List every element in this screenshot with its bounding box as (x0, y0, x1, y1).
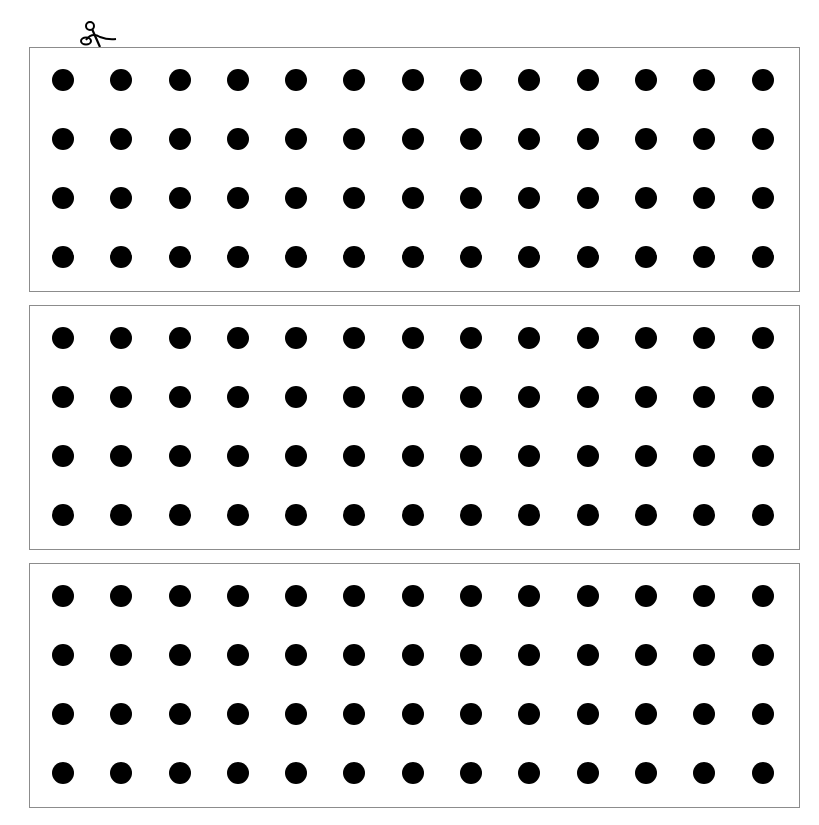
dot (402, 644, 424, 666)
dot (402, 445, 424, 467)
dot (752, 585, 774, 607)
dot (635, 445, 657, 467)
dot (110, 585, 132, 607)
dot (343, 246, 365, 268)
dot (52, 504, 74, 526)
dot (285, 445, 307, 467)
dot (343, 445, 365, 467)
dot (693, 246, 715, 268)
dot (52, 327, 74, 349)
dot (752, 504, 774, 526)
dot (460, 386, 482, 408)
dot (577, 644, 599, 666)
dot (577, 327, 599, 349)
dot (169, 703, 191, 725)
dot (285, 585, 307, 607)
dot (52, 644, 74, 666)
dot (227, 762, 249, 784)
dot (402, 187, 424, 209)
dot (52, 246, 74, 268)
dot (285, 762, 307, 784)
dot (169, 327, 191, 349)
dot (518, 703, 540, 725)
dot (285, 327, 307, 349)
dot-grid (52, 69, 774, 268)
dot (635, 703, 657, 725)
dot (52, 386, 74, 408)
dot (752, 762, 774, 784)
dot (285, 703, 307, 725)
dot (635, 585, 657, 607)
dot (285, 246, 307, 268)
dot (343, 327, 365, 349)
dot (752, 644, 774, 666)
dot (518, 445, 540, 467)
dot (693, 69, 715, 91)
dot (752, 246, 774, 268)
dot (285, 187, 307, 209)
dot (460, 703, 482, 725)
dot (752, 187, 774, 209)
dot (402, 128, 424, 150)
dot (169, 128, 191, 150)
dot (227, 504, 249, 526)
dot (577, 69, 599, 91)
dot (169, 386, 191, 408)
dot (752, 703, 774, 725)
dot (460, 327, 482, 349)
dot (110, 128, 132, 150)
dot (169, 187, 191, 209)
dot (693, 187, 715, 209)
dot (518, 504, 540, 526)
dot (693, 585, 715, 607)
dot (110, 644, 132, 666)
dot (460, 445, 482, 467)
dot (460, 128, 482, 150)
dot (518, 386, 540, 408)
dot (169, 69, 191, 91)
dot (635, 504, 657, 526)
dot (460, 762, 482, 784)
dot (343, 762, 365, 784)
dot (693, 327, 715, 349)
dot (227, 386, 249, 408)
dot (227, 69, 249, 91)
dot (402, 504, 424, 526)
dot (227, 246, 249, 268)
dot (518, 187, 540, 209)
dot (402, 69, 424, 91)
dot (285, 504, 307, 526)
dot (52, 703, 74, 725)
dot (227, 585, 249, 607)
dot (343, 187, 365, 209)
dot (169, 644, 191, 666)
dot (110, 69, 132, 91)
dot (577, 128, 599, 150)
dot-panel-2 (29, 305, 800, 550)
dot (752, 445, 774, 467)
dot (52, 187, 74, 209)
dot (52, 69, 74, 91)
dot (577, 703, 599, 725)
dot (635, 69, 657, 91)
dot (402, 703, 424, 725)
dot (402, 585, 424, 607)
dot (52, 585, 74, 607)
dot (110, 762, 132, 784)
dot (518, 128, 540, 150)
dot (227, 128, 249, 150)
dot (169, 445, 191, 467)
dot (227, 327, 249, 349)
dot (635, 327, 657, 349)
dot (285, 128, 307, 150)
dot (460, 585, 482, 607)
dot (343, 644, 365, 666)
dot (518, 644, 540, 666)
dot (460, 644, 482, 666)
dot (110, 445, 132, 467)
dot (52, 762, 74, 784)
dot (227, 703, 249, 725)
dot (518, 585, 540, 607)
dot (343, 703, 365, 725)
dot (752, 69, 774, 91)
